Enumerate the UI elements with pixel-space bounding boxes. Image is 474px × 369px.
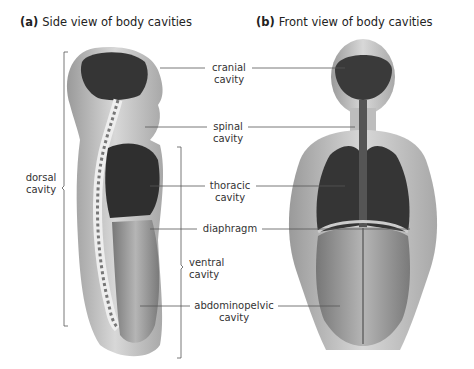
ventral-bracket: [177, 147, 183, 358]
label-dorsal-cavity: dorsal cavity: [22, 172, 60, 196]
label-cranial-line1: cranial: [208, 62, 250, 74]
label-thoracic-line1: thoracic: [206, 180, 254, 192]
label-spinal-line1: spinal: [208, 121, 248, 133]
label-cranial-cavity: cranial cavity: [208, 62, 250, 86]
label-dorsal-line1: dorsal: [22, 172, 60, 184]
label-ventral-line1: ventral: [189, 257, 224, 269]
label-diaphragm: diaphragm: [199, 223, 261, 235]
label-thoracic-cavity: thoracic cavity: [206, 180, 254, 204]
label-dorsal-line2: cavity: [22, 184, 60, 196]
dorsal-bracket: [62, 52, 68, 326]
label-diaphragm-line1: diaphragm: [199, 223, 261, 235]
label-ventral-cavity: ventral cavity: [189, 257, 224, 281]
label-abdominopelvic-line1: abdominopelvic: [191, 300, 277, 312]
label-thoracic-line2: cavity: [206, 192, 254, 204]
label-cranial-line2: cavity: [208, 74, 250, 86]
front-view-figure: [289, 39, 437, 350]
label-ventral-line2: cavity: [189, 269, 224, 281]
label-abdominopelvic-line2: cavity: [191, 312, 277, 324]
label-spinal-cavity: spinal cavity: [208, 121, 248, 145]
label-abdominopelvic-cavity: abdominopelvic cavity: [191, 300, 277, 324]
side-view-figure: [67, 47, 163, 356]
label-spinal-line2: cavity: [208, 133, 248, 145]
